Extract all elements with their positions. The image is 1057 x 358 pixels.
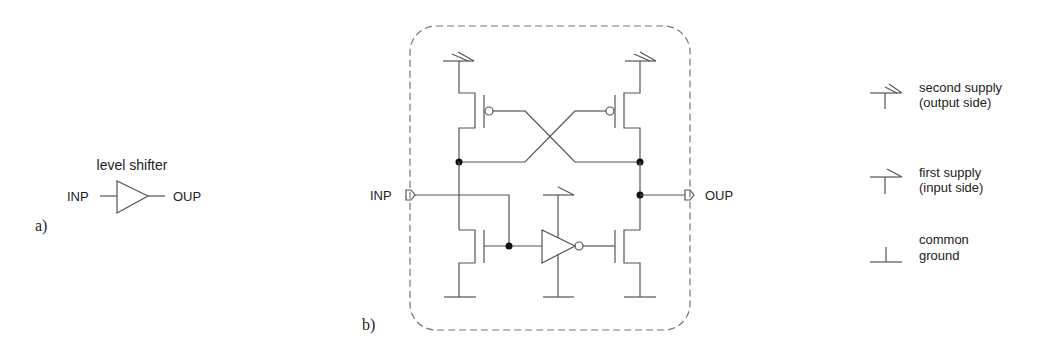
part-b-output-label: OUP — [705, 188, 733, 203]
legend-label: first supply — [919, 165, 982, 180]
panel-label-a: a) — [35, 217, 47, 235]
pmos-left — [459, 61, 525, 162]
legend-item-second-supply: second supply (output side) — [870, 80, 1003, 110]
legend-label: ground — [919, 248, 959, 263]
nmos-left — [444, 230, 542, 297]
cross-wire-1 — [525, 111, 640, 162]
level-shifter-figure: level shifter INP OUP a) b) — [0, 0, 1057, 358]
dashed-border — [410, 26, 690, 330]
part-a-output-label: OUP — [173, 189, 201, 204]
legend-item-ground: common ground — [870, 232, 969, 263]
legend: second supply (output side) first supply… — [870, 80, 1003, 263]
input-wire — [415, 195, 509, 246]
second-supply-icon — [443, 52, 474, 61]
second-supply-icon — [625, 52, 656, 61]
pmos-right — [575, 61, 640, 162]
part-b: b) — [362, 26, 733, 334]
panel-label-b: b) — [362, 316, 375, 334]
ground-icon — [870, 247, 902, 262]
legend-label: (output side) — [919, 95, 991, 110]
part-a-input-label: INP — [67, 189, 89, 204]
nmos-right — [615, 230, 656, 297]
legend-label: (input side) — [919, 180, 983, 195]
part-b-input-label: INP — [370, 188, 392, 203]
first-supply-icon — [870, 169, 902, 194]
legend-label: second supply — [919, 80, 1003, 95]
level-shifter-title: level shifter — [97, 157, 168, 173]
legend-item-first-supply: first supply (input side) — [870, 165, 983, 195]
buffer-triangle-icon — [117, 181, 148, 213]
second-supply-icon — [870, 84, 902, 109]
node-dot — [506, 243, 513, 250]
cross-wire-2 — [459, 111, 575, 162]
inverter — [542, 187, 615, 297]
legend-label: common — [919, 232, 969, 247]
part-a: level shifter INP OUP a) — [35, 157, 201, 235]
